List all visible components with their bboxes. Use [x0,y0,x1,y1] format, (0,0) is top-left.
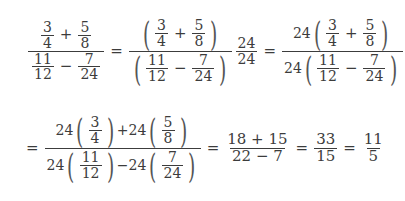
step5-fraction: 3315 [314,132,337,165]
equation-line-1: 34 + 58 1112 − 724 = ( 34 + 58 ) ( 1112 … [26,6,405,96]
step4-fraction: 18 + 1522 − 7 [225,132,289,165]
equation-line-2: = 24 ( 34 ) + 24 ( 58 ) 24 ( 1112 ) − 24… [22,103,387,193]
step1-fraction: ( 34 + 58 ) ( 1112 − 724 ) [129,17,232,86]
multiplier-fraction: 2424 [236,36,258,66]
result-fraction: 115 [362,132,385,165]
step3-fraction: 24 ( 34 ) + 24 ( 58 ) 24 ( 1112 ) − 24 (… [45,114,201,183]
step2-fraction: 24 ( 34 + 58 ) 24 ( 1112 − 724 ) [282,17,403,86]
lhs-complex-fraction: 34 + 58 1112 − 724 [28,20,104,82]
